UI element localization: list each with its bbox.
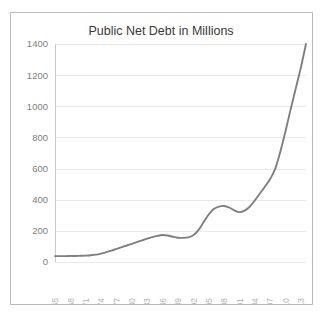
- x-axis-tick-label: 1983: [142, 298, 152, 304]
- chart-title: Public Net Debt in Millions: [88, 24, 233, 38]
- x-axis-tick-label: 1980: [127, 298, 137, 304]
- line-chart: 0200400600800100012001400 19651968197119…: [11, 13, 312, 304]
- x-axis-tick-label: 2007: [265, 298, 275, 304]
- y-axis-tick-label: 400: [32, 194, 48, 205]
- x-axis-tick-label: 2013: [296, 298, 306, 304]
- x-axis-tick-label: 1989: [173, 298, 183, 304]
- x-axis-tick-label: 2010: [281, 298, 291, 304]
- y-axis-tick-label: 200: [32, 225, 48, 236]
- x-axis-tick-label: 1968: [66, 298, 76, 304]
- chart-frame: 0200400600800100012001400 19651968197119…: [10, 12, 313, 305]
- x-axis-tick-label: 1971: [81, 298, 91, 304]
- y-axis-tick-label: 0: [43, 256, 48, 267]
- y-axis-tick-label: 1000: [27, 101, 48, 112]
- x-axis-tick-label: 1977: [112, 298, 122, 304]
- y-axis-tick-label: 800: [32, 132, 48, 143]
- x-axis-tick-label: 1986: [158, 298, 168, 304]
- y-axis-tick-label: 1200: [27, 70, 48, 81]
- y-axis-tick-labels: 0200400600800100012001400: [27, 38, 48, 267]
- x-axis-tick-label: 1992: [189, 298, 199, 304]
- x-axis-tick-labels: 1965196819711974197719801983198619891992…: [50, 298, 306, 304]
- x-axis-tick-label: 1998: [219, 298, 229, 304]
- x-axis-tick-label: 1995: [204, 298, 214, 304]
- gridlines-group: [55, 45, 306, 263]
- x-axis-tick-label: 1974: [96, 298, 106, 304]
- x-axis-tick-label: 1965: [50, 298, 60, 304]
- x-axis-tick-label: 2001: [235, 298, 245, 304]
- x-axis-tick-label: 2004: [250, 298, 260, 304]
- y-axis-tick-label: 1400: [27, 38, 48, 49]
- y-axis-tick-label: 600: [32, 163, 48, 174]
